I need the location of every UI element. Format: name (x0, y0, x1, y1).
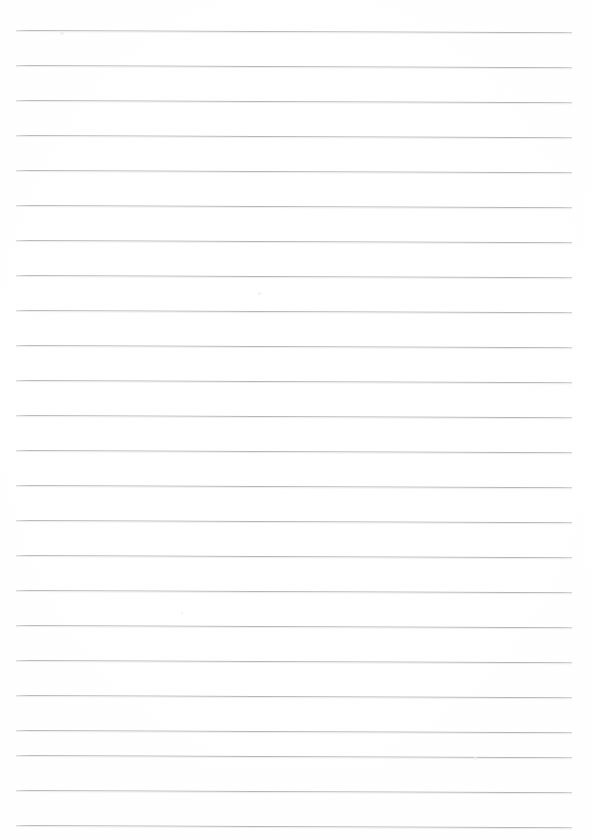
scan-speck (474, 757, 477, 760)
rule-line (16, 310, 572, 313)
scan-speck (258, 292, 261, 295)
rule-line (16, 730, 572, 733)
scan-speck (60, 31, 64, 35)
rule-line (16, 205, 572, 208)
scan-speck (181, 612, 183, 614)
rule-line (16, 100, 572, 103)
rule-line (16, 240, 572, 243)
rule-line (16, 825, 572, 828)
rule-line (16, 415, 572, 418)
rule-line (16, 135, 572, 138)
rule-line (16, 625, 572, 628)
rule-line (16, 450, 572, 453)
rule-line (16, 345, 572, 348)
rule-line (16, 755, 572, 758)
rule-line (16, 660, 572, 663)
rule-line (16, 520, 572, 523)
rule-line (16, 590, 572, 593)
ruled-lines-container (0, 0, 591, 840)
rule-line (16, 170, 572, 173)
paper-page (0, 0, 591, 840)
rule-line (16, 275, 572, 278)
rule-line (16, 790, 572, 793)
rule-line (16, 485, 572, 488)
rule-line (16, 380, 572, 383)
rule-line (16, 555, 572, 558)
rule-line (16, 695, 572, 698)
rule-line (16, 65, 572, 68)
rule-line (16, 30, 572, 33)
